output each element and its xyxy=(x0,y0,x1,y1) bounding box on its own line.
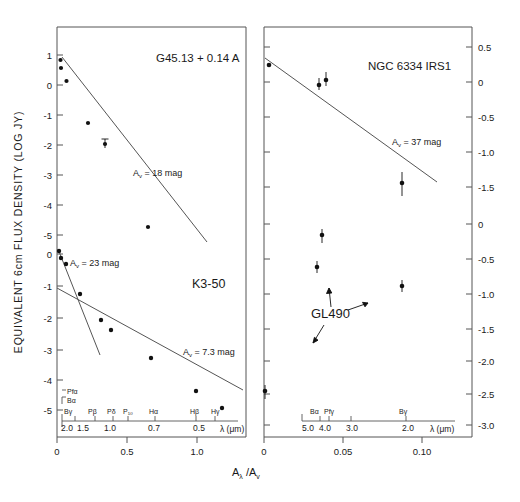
right-wavelength-axis xyxy=(302,414,455,421)
line-label: Pfα xyxy=(67,388,78,395)
ytick-label: -5 xyxy=(44,230,52,241)
data-point xyxy=(57,249,61,253)
data-point xyxy=(59,256,63,260)
right-upper-panel-title: NGC 6334 IRS1 xyxy=(368,60,451,72)
left-xaxis-ticks xyxy=(57,437,197,443)
wave-tick: 1.0 xyxy=(104,423,116,433)
ytick-label: -3 xyxy=(44,170,52,181)
ytick-label: -0.5 xyxy=(478,112,494,123)
wave-tick: 0.5 xyxy=(193,423,205,433)
ytick-label: -4 xyxy=(44,375,52,386)
data-point xyxy=(146,225,150,229)
line-label: Pfγ xyxy=(324,408,335,416)
data-point-with-error xyxy=(324,72,329,86)
ytick-label: -3.0 xyxy=(478,420,494,431)
wave-tick: 1.5 xyxy=(77,423,89,433)
left-lower-shallow-annotation: Av = 7.3 mag xyxy=(183,347,235,358)
data-point xyxy=(194,389,198,393)
right-lower-yaxis xyxy=(466,224,472,425)
data-point xyxy=(109,328,113,332)
right-upper-ytick-labels: 0.5 0 -0.5 -1.0 -1.5 xyxy=(478,42,494,193)
right-xtick-labels: 0 0.05 0.10 xyxy=(261,446,431,457)
line-label: Hγ xyxy=(211,408,220,416)
data-point xyxy=(64,79,68,83)
y-axis-label: EQUIVALENT 6cm FLUX DENSITY (LOG JY) xyxy=(12,111,24,353)
ytick-label: -1.5 xyxy=(478,324,494,335)
xtick-label: 0 xyxy=(54,446,59,457)
figure-canvas: EQUIVALENT 6cm FLUX DENSITY (LOG JY) 1 0… xyxy=(0,0,520,502)
line-label: Bγ xyxy=(64,408,73,416)
left-upper-yaxis xyxy=(57,55,63,235)
data-point xyxy=(99,318,103,322)
left-lower-ytick-labels: 0 -1 -2 -3 -4 -5 xyxy=(44,249,52,416)
left-wavelength-tick-labels: 2.0 1.5 1.0 0.7 0.5 xyxy=(61,423,205,433)
right-upper-datapoints xyxy=(267,63,405,196)
xtick-label: 0.05 xyxy=(334,446,353,457)
data-point-with-error xyxy=(400,172,405,196)
ytick-label: 0.5 xyxy=(478,42,491,53)
ytick-label: -3 xyxy=(44,345,52,356)
right-lower-panel-title: GL490 xyxy=(311,306,350,321)
data-point xyxy=(86,121,90,125)
ytick-label: -1 xyxy=(44,281,52,292)
line-label: Bγ xyxy=(399,408,408,416)
xtick-label: 0 xyxy=(261,446,266,457)
data-point-with-error xyxy=(400,280,405,292)
left-lower-panel-title: K3-50 xyxy=(192,277,225,291)
wave-tick: 2.0 xyxy=(402,423,414,433)
ytick-label: -4 xyxy=(44,200,52,211)
wave-tick: 0.7 xyxy=(148,423,160,433)
ytick-label: -1.0 xyxy=(478,147,494,158)
right-upper-yaxis xyxy=(466,47,472,187)
data-point xyxy=(58,58,62,62)
ytick-label: -2.5 xyxy=(478,389,494,400)
ytick-label: -2.0 xyxy=(478,356,494,367)
line-label: Hβ xyxy=(190,408,199,416)
ytick-label: 1 xyxy=(47,50,52,61)
xtick-label: 0.5 xyxy=(120,446,133,457)
ytick-label: -1.0 xyxy=(478,289,494,300)
wave-tick: 2.0 xyxy=(61,423,73,433)
line-label: P₁₀ xyxy=(123,408,133,415)
plot-svg: EQUIVALENT 6cm FLUX DENSITY (LOG JY) 1 0… xyxy=(0,0,520,502)
left-lower-datapoints xyxy=(57,249,224,410)
line-label: Pδ xyxy=(107,408,116,415)
right-wavelength-axis-label: λ (μm) xyxy=(430,424,454,434)
xtick-label: 0.10 xyxy=(413,446,432,457)
ytick-label: -1.5 xyxy=(478,182,494,193)
left-upper-fit-line xyxy=(62,57,207,242)
data-point-with-error xyxy=(320,229,325,243)
ytick-label: 0 xyxy=(478,77,483,88)
wave-tick: 5.0 xyxy=(302,423,314,433)
data-point-with-error xyxy=(317,78,322,90)
data-point xyxy=(64,262,68,266)
ytick-label: 0 xyxy=(478,219,483,230)
ytick-label: -5 xyxy=(44,405,52,416)
ytick-label: 0 xyxy=(47,80,52,91)
right-upper-fit-annotation: Av = 37 mag xyxy=(392,137,441,148)
left-lower-shallow-fit-line xyxy=(57,288,243,390)
data-point-with-error xyxy=(263,385,268,399)
ytick-label: -2 xyxy=(44,140,52,151)
left-xtick-labels: 0 0.5 1.0 xyxy=(54,446,203,457)
ytick-label: 0 xyxy=(47,249,52,260)
left-upper-panel-title: G45.13 + 0.14 A xyxy=(156,52,240,64)
right-panel-left-ticks xyxy=(264,47,270,425)
right-panel-frame xyxy=(264,27,472,437)
left-upper-ytick-labels: 1 0 -1 -2 -3 -4 -5 xyxy=(44,50,52,241)
data-point xyxy=(267,63,272,68)
data-point-with-error xyxy=(315,261,320,273)
wave-tick: 4.0 xyxy=(319,423,331,433)
data-point xyxy=(78,292,82,296)
ytick-label: -2 xyxy=(44,313,52,324)
data-point xyxy=(59,66,63,70)
left-wavelength-axis-label: λ (μm) xyxy=(220,424,244,434)
right-wavelength-tick-labels: 5.0 4.0 3.0 2.0 xyxy=(302,423,414,433)
left-upper-datapoints xyxy=(58,58,150,229)
left-upper-fit-annotation: Av = 18 mag xyxy=(133,168,182,179)
ytick-label: -1 xyxy=(44,110,52,121)
right-xaxis-ticks xyxy=(264,437,422,443)
left-lower-steep-annotation: Av = 23 mag xyxy=(70,258,119,269)
line-label: Hα xyxy=(149,408,158,415)
xtick-label: 1.0 xyxy=(190,446,203,457)
